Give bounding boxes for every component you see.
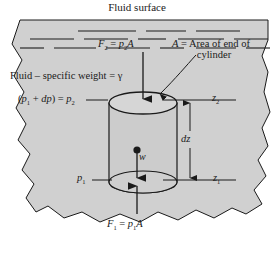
elevation-top-label: z2	[212, 92, 219, 106]
force-top-label: F2 = p2A	[98, 38, 134, 52]
figure-canvas: Fluid surface F2 = p2A A = Area of end o…	[0, 0, 274, 263]
pressure-bottom-label: p1	[77, 172, 86, 186]
height-differential-label: dz	[181, 133, 190, 144]
cylinder-bottom-face	[109, 171, 177, 193]
pressure-top-label: (p1 + dp) = p2	[18, 93, 75, 107]
specific-weight-label: Fluid – specific weight = γ	[10, 70, 122, 81]
weight-label: w	[139, 152, 146, 163]
fluid-surface-label: Fluid surface	[0, 2, 274, 14]
force-bottom-label: F1 = p1A	[107, 218, 143, 232]
elevation-bottom-label: z1	[213, 172, 220, 186]
area-annotation-label: A = Area of end of cylinder	[172, 38, 272, 60]
